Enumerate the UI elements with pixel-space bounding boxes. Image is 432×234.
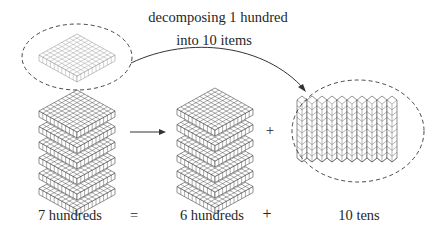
label-6-hundreds: 6 hundreds [180, 207, 244, 223]
plus-sign: + [262, 206, 271, 222]
middle-stack-6-hundreds [177, 88, 253, 214]
left-stack-6-hundreds [39, 90, 115, 216]
ten-rods-group [297, 96, 397, 162]
straight-arrow-head-icon [159, 129, 166, 135]
annotation-line-1: decomposing 1 hundred [148, 9, 287, 25]
label-7-hundreds: 7 hundreds [38, 207, 102, 223]
curved-arrow-head-icon [298, 84, 306, 92]
extracted-hundred-flat [39, 34, 115, 82]
equals-sign: = [130, 207, 138, 223]
curved-arrow [131, 47, 304, 89]
annotation-line-2: into 10 items [176, 32, 252, 48]
plus-operator-diagram: + [266, 122, 274, 139]
label-10-tens: 10 tens [338, 207, 379, 223]
